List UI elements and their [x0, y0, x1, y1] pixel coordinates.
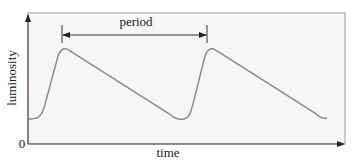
origin-label: 0 [19, 136, 26, 151]
luminosity-axis-label: luminosity [4, 50, 19, 106]
period-label: period [119, 14, 153, 29]
plot-panel [28, 13, 345, 144]
time-axis-label: time [156, 145, 179, 160]
light-curve-diagram: period time 0 luminosity [0, 0, 358, 167]
